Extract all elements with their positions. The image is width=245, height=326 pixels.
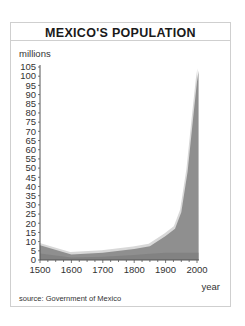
x-tick-label: 2000: [186, 264, 207, 275]
y-tick-label: 105: [20, 61, 36, 72]
x-tick-label: 1500: [29, 264, 50, 275]
x-tick-label: 1600: [61, 264, 82, 275]
population-area: [40, 71, 199, 260]
x-tick-label: 1700: [92, 264, 113, 275]
area-chart: 0510152025303540455055606570758085909510…: [0, 0, 245, 326]
x-tick-label: 1800: [124, 264, 145, 275]
x-tick-label: 1900: [155, 264, 176, 275]
